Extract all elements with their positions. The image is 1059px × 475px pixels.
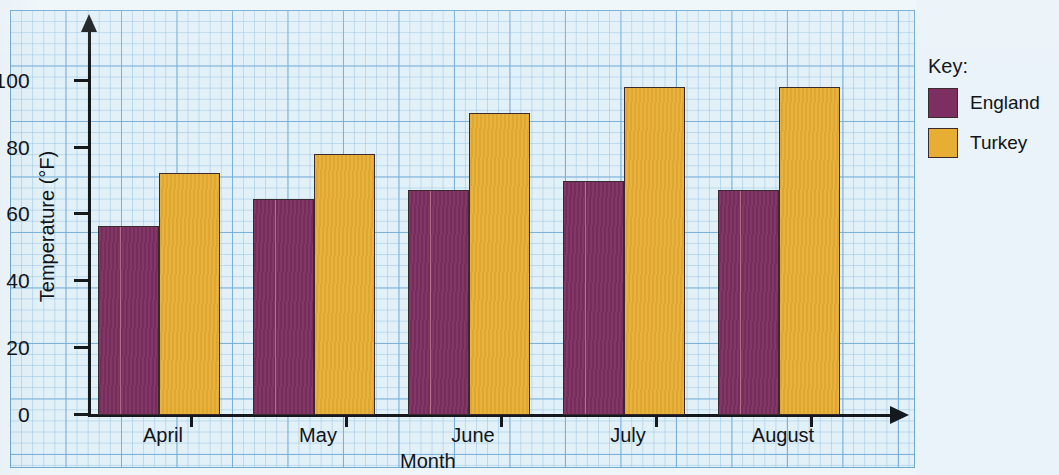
legend-item-england: England: [928, 88, 1053, 118]
y-tick-label-0: 0: [18, 403, 30, 427]
y-tick-60: [74, 212, 90, 215]
bar-england-april: [98, 226, 159, 415]
y-tick-80: [74, 146, 90, 149]
x-axis-title: Month: [400, 450, 456, 473]
y-tick-label-60: 60: [6, 202, 30, 226]
y-tick-0: [74, 413, 90, 416]
bar-england-june: [408, 190, 469, 415]
legend-label-turkey: Turkey: [970, 132, 1027, 154]
y-tick-label-100: 100: [0, 69, 30, 93]
bar-turkey-june: [469, 113, 530, 415]
y-tick-label-80: 80: [6, 136, 30, 160]
y-axis-title: Temperature (°F): [36, 102, 59, 352]
graph-paper-page: 0 20 40 60 80 100 Temperature (°F) April…: [0, 0, 1059, 475]
bar-england-may: [253, 199, 314, 415]
bar-england-july: [563, 181, 624, 415]
bar-turkey-august: [779, 87, 840, 415]
x-label-july: July: [573, 424, 683, 447]
x-label-june: June: [418, 424, 528, 447]
legend-swatch-england: [928, 88, 958, 118]
bar-chart-plot: 0 20 40 60 80 100 Temperature (°F) April…: [0, 0, 1059, 475]
bar-turkey-may: [314, 154, 375, 415]
legend-label-england: England: [970, 92, 1040, 114]
bar-turkey-april: [159, 173, 220, 415]
y-axis-arrow-icon: [81, 14, 97, 32]
bar-turkey-july: [624, 87, 685, 415]
y-tick-100: [74, 79, 90, 82]
y-tick-20: [74, 346, 90, 349]
legend-title: Key:: [928, 55, 1053, 78]
x-axis-arrow-icon: [890, 406, 909, 424]
x-label-august: August: [728, 424, 838, 447]
y-tick-40: [74, 279, 90, 282]
bar-england-august: [718, 190, 779, 415]
legend-swatch-turkey: [928, 128, 958, 158]
y-axis-line: [88, 28, 91, 416]
chart-legend: Key: England Turkey: [928, 55, 1053, 168]
y-tick-label-40: 40: [6, 269, 30, 293]
y-tick-label-20: 20: [6, 336, 30, 360]
x-label-may: May: [263, 424, 373, 447]
legend-item-turkey: Turkey: [928, 128, 1053, 158]
x-label-april: April: [108, 424, 218, 447]
